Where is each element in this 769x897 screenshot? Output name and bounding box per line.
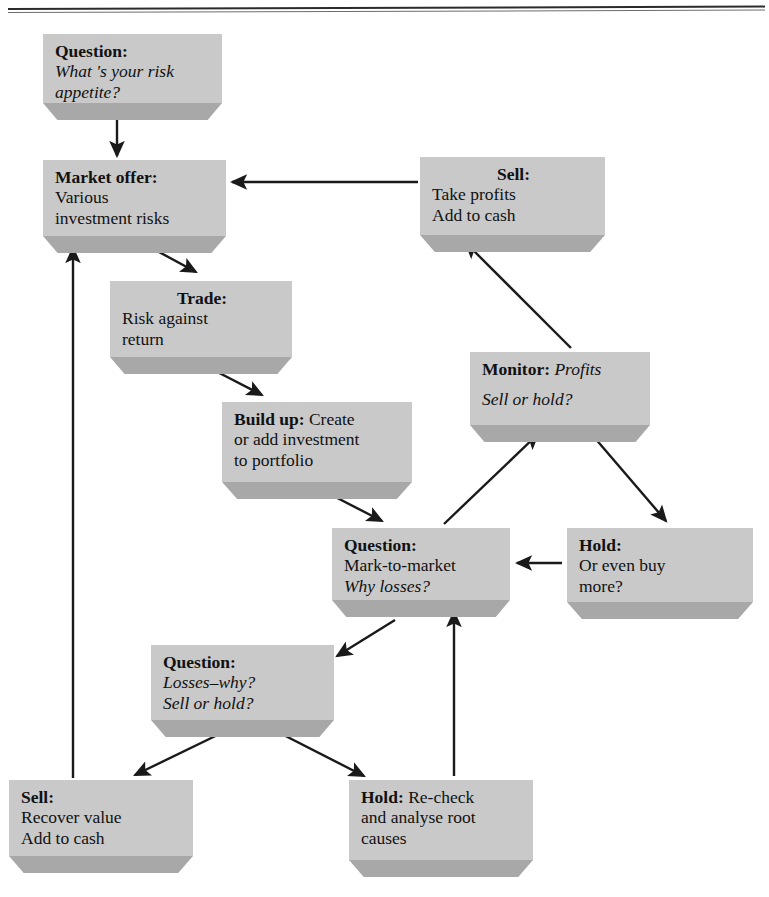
hold-buy-more-box[interactable]: Hold: Or even buy more? <box>567 528 753 602</box>
box-extrusion <box>43 103 222 120</box>
node-line-1: Losses–why? <box>163 672 324 692</box>
box-extrusion <box>222 482 412 499</box>
node-line-2: Sell or hold? <box>163 693 324 713</box>
node-heading-row: Hold: Re-check <box>361 787 523 807</box>
edge-monitor-to-sell-profits <box>466 243 571 348</box>
node-heading: Market offer: <box>55 167 216 187</box>
build-up-box[interactable]: Build up: Create or add investment to po… <box>222 402 412 482</box>
box-extrusion <box>9 856 193 873</box>
node-line-1: Various <box>55 187 216 207</box>
box-extrusion <box>110 357 292 374</box>
node-heading: Question: <box>55 41 212 61</box>
node-heading: Question: <box>344 535 500 555</box>
node-line-3: to portfolio <box>234 450 402 470</box>
box-face: Market offer: Various investment risks <box>43 160 226 236</box>
node-line-2: and analyse root <box>361 807 523 827</box>
edge-question-mtm-to-monitor <box>444 434 538 524</box>
node-line-1: Risk against <box>122 308 282 328</box>
node-heading: Build up: <box>234 409 305 429</box>
sell-take-profits-box[interactable]: Sell: Take profits Add to cash <box>420 157 605 235</box>
node-line-1: Recover value <box>21 807 183 827</box>
node-line-2: investment risks <box>55 208 216 228</box>
node-line-2: appetite? <box>55 82 212 102</box>
box-extrusion <box>332 600 510 617</box>
market-offer-box[interactable]: Market offer: Various investment risks <box>43 160 226 236</box>
node-line-3: causes <box>361 828 523 848</box>
box-face: Monitor: Profits Sell or hold? <box>470 352 650 425</box>
node-line-2: Add to cash <box>21 828 183 848</box>
node-spacer <box>482 379 640 389</box>
box-extrusion <box>151 720 334 737</box>
trade-box[interactable]: Trade: Risk against return <box>110 281 292 357</box>
monitor-profits-box[interactable]: Monitor: Profits Sell or hold? <box>470 352 650 425</box>
edge-question-mtm-to-question-losses <box>337 620 395 656</box>
sell-recover-value-box[interactable]: Sell: Recover value Add to cash <box>9 780 193 856</box>
box-face: Question: Losses–why? Sell or hold? <box>151 645 334 720</box>
node-heading: Trade: <box>122 288 282 308</box>
node-line-1: Profits <box>554 359 601 379</box>
box-face: Question: Mark-to-market Why losses? <box>332 528 510 600</box>
node-heading-row: Monitor: Profits <box>482 359 640 379</box>
box-face: Sell: Recover value Add to cash <box>9 780 193 856</box>
node-line-1: Re-check <box>408 787 474 807</box>
node-line-1: Mark-to-market <box>344 555 500 575</box>
box-extrusion <box>470 425 650 442</box>
node-heading: Hold: <box>579 535 743 555</box>
box-extrusion <box>349 860 533 877</box>
box-face: Question: What 's your risk appetite? <box>43 34 222 103</box>
node-line-2: Sell or hold? <box>482 389 640 409</box>
node-line-1: What 's your risk <box>55 61 212 81</box>
box-extrusion <box>567 602 753 619</box>
node-line-1: Create <box>309 409 355 429</box>
node-line-2: more? <box>579 576 743 596</box>
node-heading: Hold: <box>361 787 404 807</box>
node-line-1: Or even buy <box>579 555 743 575</box>
box-face: Hold: Re-check and analyse root causes <box>349 780 533 860</box>
node-line-1: Take profits <box>432 184 595 204</box>
box-extrusion <box>43 236 226 253</box>
node-line-2: Add to cash <box>432 205 595 225</box>
box-face: Hold: Or even buy more? <box>567 528 753 602</box>
hold-recheck-box[interactable]: Hold: Re-check and analyse root causes <box>349 780 533 860</box>
box-face: Trade: Risk against return <box>110 281 292 357</box>
edge-monitor-to-hold-buy-more <box>588 430 666 521</box>
box-extrusion <box>420 235 605 252</box>
box-face: Build up: Create or add investment to po… <box>222 402 412 482</box>
node-heading-row: Build up: Create <box>234 409 402 429</box>
node-heading: Monitor: <box>482 359 550 379</box>
page-header-rule-secondary <box>8 10 765 13</box>
question-losses-why-box[interactable]: Question: Losses–why? Sell or hold? <box>151 645 334 720</box>
question-mark-to-market-box[interactable]: Question: Mark-to-market Why losses? <box>332 528 510 600</box>
node-heading: Sell: <box>432 164 595 184</box>
node-line-2: Why losses? <box>344 576 500 596</box>
box-face: Sell: Take profits Add to cash <box>420 157 605 235</box>
flowchart-page: Question: What 's your risk appetite? Ma… <box>0 0 769 897</box>
node-line-2: return <box>122 329 282 349</box>
node-heading: Sell: <box>21 787 183 807</box>
node-line-2: or add investment <box>234 429 402 449</box>
question-risk-appetite-box[interactable]: Question: What 's your risk appetite? <box>43 34 222 103</box>
node-heading: Question: <box>163 652 324 672</box>
